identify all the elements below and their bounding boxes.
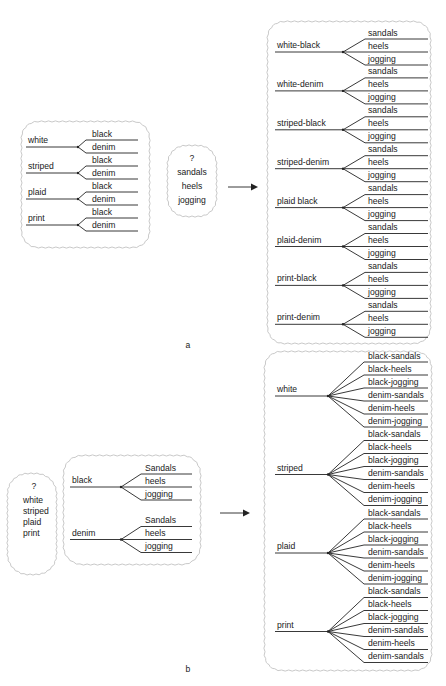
branch-label: jogging bbox=[367, 170, 396, 180]
tree-group: stripedblackdenim bbox=[26, 155, 138, 180]
branch-label: heels bbox=[145, 476, 166, 486]
branch-label: jogging bbox=[144, 541, 173, 551]
branch-label: black bbox=[92, 207, 113, 217]
branch-label: black-jogging bbox=[368, 612, 419, 622]
branch-label: denim-sandals bbox=[368, 547, 424, 557]
branch-label: Sandals bbox=[145, 515, 176, 525]
branch-label: black bbox=[92, 155, 113, 165]
group-label: white-black bbox=[276, 40, 321, 50]
tree-group: striped-denimsandalsheelsjogging bbox=[275, 144, 428, 182]
branch-label: denim-heels bbox=[368, 403, 415, 413]
branch-label: denim bbox=[92, 168, 115, 178]
branch-label: denim-jogging bbox=[368, 494, 422, 504]
branch-label: denim-sandals bbox=[368, 468, 424, 478]
branch-label: denim-sandals bbox=[368, 651, 424, 661]
tree-group: blackSandalsheelsjogging bbox=[70, 463, 192, 501]
tree-group: whiteblackdenim bbox=[26, 129, 138, 154]
tree-diagram: whiteblackdenimstripedblackdenimplaidbla… bbox=[0, 0, 446, 686]
question-mark: ? bbox=[190, 153, 195, 163]
branch-label: sandals bbox=[368, 300, 398, 310]
unknown-item: sandals bbox=[177, 167, 207, 177]
branch-label: jogging bbox=[144, 489, 173, 499]
branch-label: black-sandals bbox=[368, 508, 421, 518]
tree-group: plaid blacksandalsheelsjogging bbox=[275, 183, 428, 221]
cloud-outline bbox=[267, 21, 431, 344]
branch-label: heels bbox=[368, 313, 389, 323]
branch-label: heels bbox=[145, 528, 166, 538]
branch-label: jogging bbox=[367, 209, 396, 219]
tree-group: plaidblack-sandalsblack-heelsblack-joggi… bbox=[275, 508, 428, 585]
group-label: striped-black bbox=[277, 118, 326, 128]
branch-label: denim-sandals bbox=[368, 625, 424, 635]
tree-group: plaidblackdenim bbox=[26, 181, 138, 206]
branch-label: black bbox=[92, 129, 113, 139]
group-label: denim bbox=[72, 528, 95, 538]
branch-label: denim-sandals bbox=[368, 390, 424, 400]
group-label: black bbox=[72, 475, 93, 485]
branch-label: jogging bbox=[367, 54, 396, 64]
unknown-item: print bbox=[23, 528, 40, 538]
b-unknown-shirts-set: ?whitestripedplaidprint bbox=[7, 473, 57, 575]
group-label: print-denim bbox=[277, 312, 320, 322]
caption-b: b bbox=[186, 664, 191, 674]
branch-label: denim-heels bbox=[368, 638, 415, 648]
group-label: striped-denim bbox=[277, 157, 329, 167]
branch-label: sandals bbox=[368, 222, 398, 232]
branch-label: black-heels bbox=[368, 442, 411, 452]
group-label: print bbox=[277, 620, 294, 630]
branch-label: denim-jogging bbox=[368, 573, 422, 583]
branch-label: jogging bbox=[367, 131, 396, 141]
unknown-item: white bbox=[22, 495, 43, 505]
tree-group: printblackdenim bbox=[26, 207, 138, 232]
unknown-item: jogging bbox=[177, 195, 206, 205]
group-label: plaid bbox=[277, 541, 295, 551]
caption-a: a bbox=[186, 340, 191, 350]
tree-group: printblack-sandalsblack-heelsblack-joggi… bbox=[275, 586, 428, 663]
tree-group: plaid-denimsandalsheelsjogging bbox=[275, 222, 428, 260]
branch-label: black bbox=[92, 181, 113, 191]
group-label: white bbox=[27, 135, 48, 145]
branch-label: black-sandals bbox=[368, 429, 421, 439]
tree-group: print-denimsandalsheelsjogging bbox=[275, 300, 428, 338]
tree-group: striped-blacksandalsheelsjogging bbox=[275, 105, 428, 143]
panel-b: ?whitestripedplaidprint blackSandalsheel… bbox=[7, 351, 432, 675]
branch-label: denim-heels bbox=[368, 560, 415, 570]
branch-label: heels bbox=[368, 79, 389, 89]
tree-group: denimSandalsheelsjogging bbox=[70, 515, 192, 553]
branch-label: sandals bbox=[368, 183, 398, 193]
branch-label: black-jogging bbox=[368, 534, 419, 544]
branch-label: jogging bbox=[367, 326, 396, 336]
group-label: white-denim bbox=[276, 79, 323, 89]
branch-label: sandals bbox=[368, 261, 398, 271]
branch-label: heels bbox=[368, 274, 389, 284]
branch-label: denim-heels bbox=[368, 481, 415, 491]
unknown-item: striped bbox=[23, 506, 49, 516]
branch-label: sandals bbox=[368, 66, 398, 76]
branch-label: denim bbox=[92, 194, 115, 204]
tree-group: print-blacksandalsheelsjogging bbox=[275, 261, 428, 299]
group-label: striped bbox=[28, 161, 54, 171]
b-arrow-icon bbox=[220, 510, 250, 517]
tree-group: stripedblack-sandalsblack-heelsblack-jog… bbox=[275, 429, 428, 506]
branch-label: black-heels bbox=[368, 599, 411, 609]
b-result-tree: whiteblack-sandalsblack-heelsblack-joggi… bbox=[264, 351, 432, 672]
branch-label: denim-jogging bbox=[368, 416, 422, 426]
b-pants-shoes-tree: blackSandalsheelsjoggingdenimSandalsheel… bbox=[63, 455, 201, 565]
tree-group: white-denimsandalsheelsjogging bbox=[275, 66, 428, 104]
branch-label: black-heels bbox=[368, 521, 411, 531]
group-label: white bbox=[276, 384, 297, 394]
branch-label: heels bbox=[368, 196, 389, 206]
a-result-tree: white-blacksandalsheelsjoggingwhite-deni… bbox=[267, 21, 431, 344]
unknown-item: plaid bbox=[23, 517, 41, 527]
tree-group: white-blacksandalsheelsjogging bbox=[275, 28, 428, 66]
tree-group: whiteblack-sandalsblack-heelsblack-joggi… bbox=[275, 351, 428, 428]
group-label: print-black bbox=[277, 273, 317, 283]
branch-label: black-jogging bbox=[368, 377, 419, 387]
branch-label: heels bbox=[368, 157, 389, 167]
a-pattern-pants-tree: whiteblackdenimstripedblackdenimplaidbla… bbox=[21, 121, 150, 248]
group-label: plaid-denim bbox=[277, 235, 321, 245]
branch-label: heels bbox=[368, 41, 389, 51]
branch-label: denim bbox=[92, 142, 115, 152]
branch-label: sandals bbox=[368, 105, 398, 115]
branch-label: jogging bbox=[367, 248, 396, 258]
